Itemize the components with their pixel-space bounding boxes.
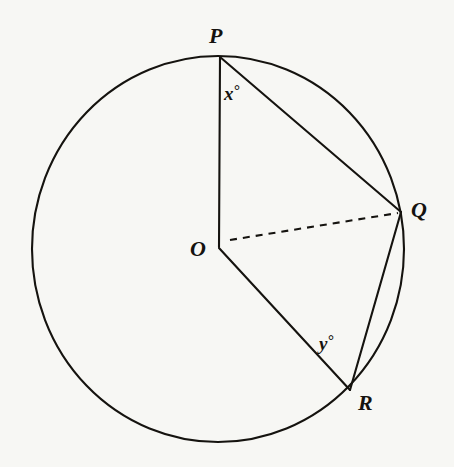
angle-variable-x: x [224, 83, 234, 104]
point-label-r: R [358, 392, 373, 414]
segment-pq [220, 57, 401, 212]
point-label-p: P [209, 25, 222, 47]
angle-label-y: y° [319, 333, 334, 353]
degree-symbol-y: ° [328, 332, 334, 348]
circle-outline [32, 56, 404, 442]
point-label-o: O [190, 238, 206, 260]
angle-variable-y: y [319, 333, 327, 354]
degree-symbol-x: ° [234, 82, 240, 98]
segment-oq-dashed [230, 213, 398, 240]
point-label-q: Q [411, 199, 427, 221]
segment-qr [350, 212, 401, 390]
angle-label-x: x° [224, 83, 240, 103]
segment-or [219, 248, 350, 390]
geometry-canvas [0, 0, 454, 467]
segment-op [219, 57, 220, 247]
geometry-figure: P Q R O x° y° [0, 0, 454, 467]
